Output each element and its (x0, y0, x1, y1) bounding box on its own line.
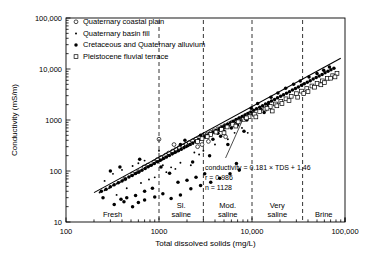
data-point (254, 115, 258, 119)
sample-size-annotation: n = 1128 (205, 184, 232, 191)
data-point (148, 179, 150, 181)
data-point (126, 187, 128, 189)
data-point (104, 180, 106, 182)
data-point (120, 179, 124, 183)
data-point (137, 162, 139, 164)
data-point (313, 85, 317, 89)
data-point (303, 82, 307, 86)
zone-label: Fresh (103, 210, 122, 219)
data-point (170, 166, 172, 168)
data-point (202, 150, 204, 152)
data-point (151, 186, 155, 190)
data-point (297, 85, 301, 89)
zone-label: Brine (315, 210, 333, 219)
data-point (109, 169, 113, 173)
data-point (226, 143, 230, 147)
zone-label: saline (171, 210, 191, 219)
data-point (234, 132, 236, 134)
data-point (291, 88, 295, 92)
data-point (194, 176, 198, 180)
data-point (214, 144, 216, 146)
y-axis-label: Conductivity (mS/m) (10, 84, 19, 156)
data-point (173, 151, 177, 155)
data-point (143, 198, 147, 202)
data-point (222, 131, 226, 135)
data-point (306, 80, 310, 84)
data-point (241, 127, 243, 129)
data-point (112, 183, 116, 187)
data-point (332, 66, 336, 70)
data-point (320, 73, 324, 77)
data-point (247, 132, 249, 134)
data-point (149, 163, 153, 167)
legend-marker-filled-square (74, 43, 78, 47)
data-point (112, 173, 114, 175)
data-point (308, 79, 312, 83)
x-tick-label: 1000 (151, 227, 168, 236)
data-point (171, 152, 175, 156)
data-point (168, 172, 172, 176)
data-point (322, 68, 326, 72)
conductivity-tds-scatter-plot: 100100010,000100,000Total dissolved soli… (0, 0, 371, 268)
data-point (121, 169, 123, 171)
data-point (258, 110, 262, 114)
data-point (328, 65, 332, 69)
data-point (112, 203, 116, 207)
zone-label: saline (267, 210, 287, 219)
data-point (138, 157, 142, 161)
data-point (132, 165, 134, 167)
data-point (162, 157, 166, 161)
data-point (116, 194, 118, 196)
data-point (191, 160, 195, 164)
data-point (333, 75, 337, 79)
y-tick-label: 10 (54, 218, 62, 227)
data-point (169, 197, 173, 201)
data-point (276, 96, 280, 100)
data-point (159, 165, 163, 169)
data-point (179, 193, 183, 197)
data-point (174, 168, 176, 170)
data-point (165, 171, 167, 173)
data-point (227, 138, 229, 140)
data-point (104, 187, 108, 191)
data-point (329, 76, 333, 80)
data-point (183, 139, 187, 143)
data-point (100, 190, 104, 194)
data-point (322, 81, 326, 85)
data-point (185, 178, 189, 182)
data-point (270, 109, 274, 113)
data-point (143, 167, 147, 171)
data-point (270, 99, 274, 103)
x-tick-label: 100 (60, 227, 73, 236)
data-point (161, 192, 165, 196)
data-point (230, 126, 234, 129)
legend-label-2: Cretaceous and Quaternary alluvium (83, 40, 205, 49)
data-point (109, 185, 113, 189)
data-point (119, 197, 123, 201)
data-point (285, 91, 289, 95)
data-point (146, 165, 150, 169)
data-point (196, 140, 200, 144)
data-point (193, 152, 195, 154)
data-point (140, 168, 144, 172)
data-point (101, 196, 105, 200)
data-point (179, 162, 181, 164)
data-point (189, 187, 193, 191)
data-point (199, 184, 203, 188)
data-point (140, 182, 142, 184)
data-point (153, 195, 157, 199)
data-point (134, 172, 138, 176)
data-point (280, 102, 284, 106)
x-tick-label: 10,000 (241, 227, 264, 236)
data-point (282, 93, 286, 97)
data-point (275, 104, 279, 108)
data-point (306, 90, 310, 94)
data-point (287, 99, 291, 103)
data-point (198, 154, 200, 156)
legend-label-3: Pleistocene fluvial terrace (83, 52, 168, 61)
data-point (158, 150, 160, 152)
zone-label: saline (218, 210, 238, 219)
correlation-annotation: r = 0.986 (205, 174, 233, 181)
data-point (122, 200, 126, 204)
data-point (156, 160, 160, 164)
